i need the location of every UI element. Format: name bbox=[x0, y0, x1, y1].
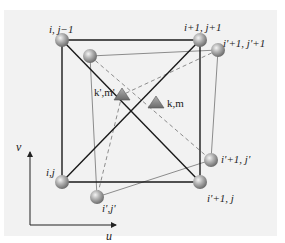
sphere-ip1-j bbox=[193, 175, 207, 189]
axes bbox=[30, 152, 116, 225]
outer-cell-edges bbox=[62, 40, 200, 182]
sphere-ip1-jp1 bbox=[193, 33, 207, 47]
sphere-i-jm1 bbox=[55, 33, 69, 47]
label-ip1-jp1: i+1, j+1 bbox=[184, 22, 221, 33]
label-i-jm1: i, j−1 bbox=[49, 24, 74, 35]
triangle-k-m bbox=[148, 96, 164, 108]
sphere-i-j bbox=[55, 175, 69, 189]
inner-cell-edges bbox=[90, 50, 218, 197]
sphere-ipp1-jp bbox=[204, 153, 218, 167]
label-ipp1-jp: i'+1, j' bbox=[221, 154, 250, 165]
label-i-j: i,j bbox=[46, 167, 55, 178]
label-k-m: k,m bbox=[167, 98, 184, 109]
dashed-connections bbox=[90, 50, 218, 197]
sphere-inner-top-left bbox=[83, 49, 97, 63]
label-kp-mp: k',m' bbox=[94, 87, 115, 98]
label-ip-jp: i',j' bbox=[102, 203, 116, 214]
triangle-kp-mp bbox=[114, 88, 130, 100]
label-ip1-j: i'+1, j bbox=[207, 193, 234, 204]
axis-label-u: u bbox=[106, 230, 112, 242]
axis-label-v: v bbox=[16, 141, 21, 153]
label-ipp1-jpp1: i'+1, j'+1 bbox=[223, 38, 265, 49]
